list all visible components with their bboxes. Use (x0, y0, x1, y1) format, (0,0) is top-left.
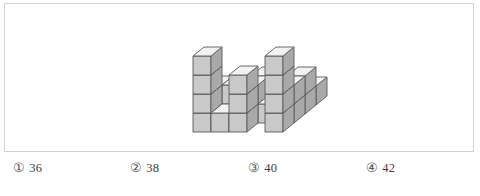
option-4-marker: ④ (366, 160, 378, 176)
option-4[interactable]: ④42 (366, 160, 395, 176)
option-1-marker: ① (13, 160, 25, 176)
option-3[interactable]: ③40 (248, 160, 277, 176)
option-1[interactable]: ①36 (13, 160, 42, 176)
option-2-marker: ② (130, 160, 142, 176)
option-2-label: 38 (146, 161, 159, 176)
answer-options: ①36 ②38 ③40 ④42 (0, 160, 480, 190)
option-2[interactable]: ②38 (130, 160, 159, 176)
option-3-marker: ③ (248, 160, 260, 176)
cube-figure (5, 4, 475, 153)
isometric-cube-stack (5, 4, 475, 153)
option-3-label: 40 (264, 161, 277, 176)
option-1-label: 36 (29, 161, 42, 176)
figure-panel (4, 3, 474, 152)
option-4-label: 42 (382, 161, 395, 176)
cube-group (193, 47, 327, 132)
